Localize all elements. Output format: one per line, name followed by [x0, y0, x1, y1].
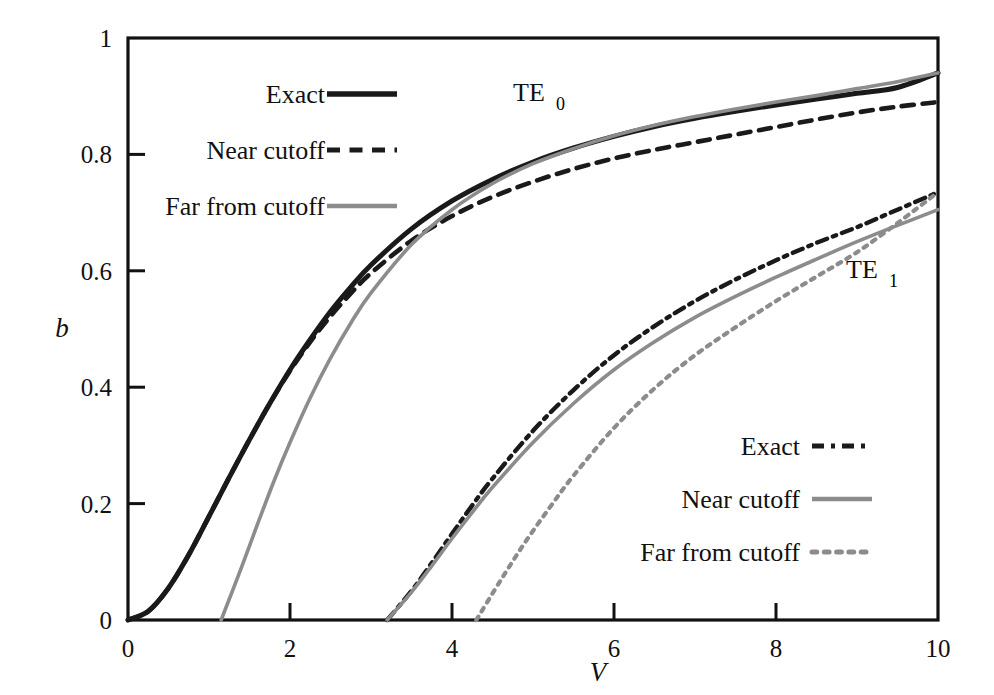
y-tick-label: 0.6 [81, 258, 112, 285]
legend-label: Exact [741, 432, 801, 461]
y-tick-label: 0 [100, 607, 113, 634]
te0-label: TE [513, 78, 545, 107]
legend-label: Far from cutoff [640, 538, 800, 567]
te0-label-subscript: 0 [556, 94, 565, 114]
figure-container: 0246810 00.20.40.60.81 V b TE 0 TE 1 Exa… [0, 0, 994, 695]
y-axis-title: b [55, 313, 69, 343]
x-axis-tick-labels: 0246810 [122, 635, 951, 662]
legend-label: Near cutoff [681, 485, 800, 514]
y-tick-label: 0.4 [81, 374, 113, 401]
x-tick-label: 8 [770, 635, 783, 662]
legend-te0: ExactNear cutoffFar from cutoff [165, 80, 397, 221]
x-tick-label: 10 [926, 635, 951, 662]
legend-label: Far from cutoff [165, 192, 325, 221]
line-chart: 0246810 00.20.40.60.81 V b TE 0 TE 1 Exa… [0, 0, 994, 695]
x-tick-label: 6 [608, 635, 621, 662]
te1-annotation: TE 1 [846, 255, 898, 291]
y-tick-label: 1 [100, 25, 113, 52]
x-tick-label: 4 [446, 635, 459, 662]
te0-annotation: TE 0 [513, 78, 565, 114]
curve-te0-far-from-cutoff [221, 73, 938, 620]
y-tick-label: 0.8 [81, 141, 112, 168]
legend-te1: ExactNear cutoffFar from cutoff [640, 432, 872, 567]
legend-label: Near cutoff [206, 136, 325, 165]
te1-label-subscript: 1 [889, 271, 898, 291]
y-axis-tick-labels: 00.20.40.60.81 [81, 25, 113, 634]
y-tick-label: 0.2 [81, 491, 112, 518]
x-tick-label: 2 [284, 635, 297, 662]
legend-label: Exact [266, 80, 326, 109]
y-axis-ticks [128, 154, 145, 503]
x-axis-ticks [290, 603, 776, 620]
x-axis-title: V [590, 657, 610, 687]
x-tick-label: 0 [122, 635, 135, 662]
te1-label: TE [846, 255, 878, 284]
